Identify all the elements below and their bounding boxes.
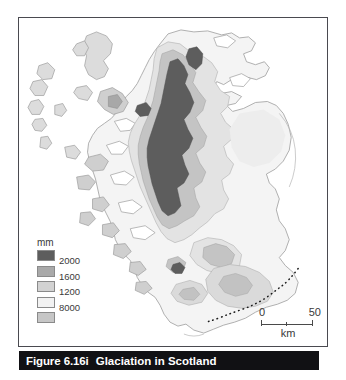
legend-row: 8000 [37, 297, 99, 313]
legend-row: 2000 [37, 250, 99, 266]
scale-ruler [259, 320, 321, 327]
legend-swatch-lowest [37, 312, 55, 323]
legend-label-1600: 1600 [59, 272, 80, 282]
figure-caption-bar: Figure 6.16i Glaciation in Scotland [19, 351, 319, 370]
scale-tick-start [261, 320, 262, 326]
legend-row [37, 312, 99, 328]
legend-swatch-800 [37, 297, 55, 308]
legend-label-1200: 1200 [59, 287, 80, 297]
figure-title: Glaciation in Scotland [96, 355, 217, 367]
legend-label-2000: 2000 [59, 256, 80, 266]
scale-numbers: 0 50 [259, 306, 321, 319]
legend-swatch-2000 [37, 250, 55, 261]
legend-row: 1200 [37, 281, 99, 297]
legend-row: 1600 [37, 266, 99, 282]
scale-bar: 0 50 km [259, 306, 321, 339]
scale-tick-mid [286, 322, 287, 326]
legend-label-800: 8000 [59, 303, 80, 313]
precipitation-legend: mm 2000 1600 1200 8000 [37, 237, 99, 328]
legend-swatch-1600 [37, 266, 55, 277]
scale-tick-end [312, 320, 313, 326]
figure-glaciation-in-scotland: mm 2000 1600 1200 8000 [0, 0, 346, 380]
scale-min-label: 0 [259, 306, 265, 318]
figure-number: Figure 6.16i [26, 355, 89, 367]
legend-unit-label: mm [37, 237, 99, 248]
scale-max-label: 50 [309, 306, 321, 318]
legend-swatch-1200 [37, 281, 55, 292]
scale-unit-label: km [259, 327, 321, 339]
map-frame: mm 2000 1600 1200 8000 [18, 17, 328, 347]
